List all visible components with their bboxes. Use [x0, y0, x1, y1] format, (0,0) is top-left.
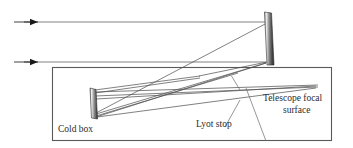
lyot-stop-label: Lyot stop — [196, 119, 232, 129]
focal-surface-label-line1: Telescope focal — [263, 93, 323, 103]
cold-box-label: Cold box — [58, 124, 93, 134]
primary-mirror — [90, 88, 98, 119]
optical-diagram-figure: Cold box Lyot stop Telescope focal surfa… — [0, 0, 353, 148]
diagram-canvas: Cold box Lyot stop Telescope focal surfa… — [0, 0, 353, 148]
focal-surface-label-line2: surface — [283, 105, 310, 115]
